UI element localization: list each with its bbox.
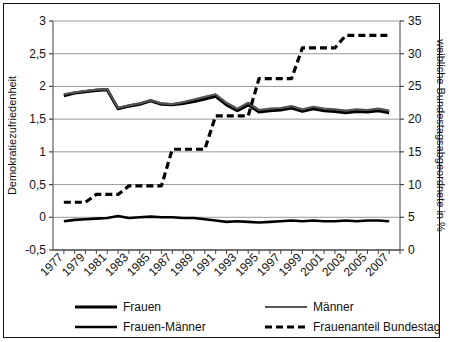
legend-label-2: Frauen-Männer [123,320,206,334]
x-tick-label: 2003 [319,250,348,279]
y2-tick-label: 25 [408,79,422,93]
y-tick-label: 0 [39,210,46,224]
x-tick-label: 1993 [211,250,240,279]
x-tick-label: 1989 [167,250,196,279]
y2-axis-title: weibliche Bundestagsabgeordnete in % [435,38,447,232]
x-tick-label: 2001 [297,250,326,279]
x-tick-label: 1979 [59,250,88,279]
y-axis-title: Demokratiezufriedenheit [6,76,18,195]
y-tick-label: 1 [39,145,46,159]
axis-titles: Demokratiezufriedenheitweibliche Bundest… [6,38,447,232]
y2-tick-label: 30 [408,47,422,61]
x-tick-label: 1985 [124,250,153,279]
plot-frame [53,21,400,250]
chart-legend: FrauenMännerFrauen-MännerFrauenanteil Bu… [75,300,440,334]
series-line-1 [64,89,389,111]
y2-tick-label: 15 [408,145,422,159]
x-tick-label: 1987 [146,250,175,279]
y-tick-label: 0,5 [29,178,46,192]
legend-label-0: Frauen [123,300,161,314]
x-tick-label: 1995 [232,250,261,279]
x-tick-label: 1999 [276,250,305,279]
x-tick-label: 2005 [341,250,370,279]
x-tick-label: 2007 [362,250,391,279]
y-tick-label: 2,5 [29,47,46,61]
x-tick-label: 1981 [81,250,110,279]
chart-figure: 1977197919811983198519871989199119931995… [0,0,454,342]
y2-axis-tick-labels: 05101520253035 [408,14,422,257]
y-tick-label: -0,5 [25,243,46,257]
y-tick-label: 1,5 [29,112,46,126]
x-tick-label: 1991 [189,250,218,279]
y2-tick-label: 5 [408,210,415,224]
y2-tick-label: 0 [408,243,415,257]
x-tick-label: 1983 [102,250,131,279]
y2-tick-label: 10 [408,178,422,192]
legend-label-3: Frauenanteil Bundestag [313,320,440,334]
y2-tick-label: 35 [408,14,422,28]
gridlines [53,21,400,217]
x-tick-label: 1997 [254,250,283,279]
x-axis-tick-labels: 1977197919811983198519871989199119931995… [37,250,391,279]
y2-tick-label: 20 [408,112,422,126]
chart-canvas: 1977197919811983198519871989199119931995… [0,0,454,342]
y-tick-label: 2 [39,79,46,93]
legend-label-1: Männer [313,300,354,314]
data-series-layer [64,35,389,222]
y-axis-tick-labels: -0,500,511,522,53 [25,14,46,257]
y-tick-label: 3 [39,14,46,28]
